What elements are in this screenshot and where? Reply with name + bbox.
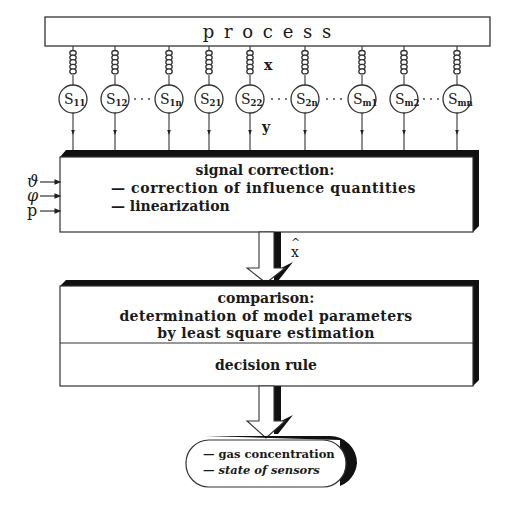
coupling-coil-icon bbox=[302, 51, 308, 74]
process-label: p r o c e s s bbox=[203, 21, 334, 42]
sensor-s2n: S2n bbox=[291, 46, 319, 151]
decision-rule: decision rule bbox=[215, 357, 317, 373]
input-p: p bbox=[27, 201, 37, 220]
output-item-2: — state of sensors bbox=[203, 463, 320, 477]
output-item-1: — gas concentration bbox=[203, 447, 335, 461]
sensor-s1n: S1n bbox=[155, 46, 183, 151]
coupling-coil-icon bbox=[359, 51, 365, 74]
sensor-sm1: Sm1 bbox=[348, 46, 378, 151]
coupling-coil-icon bbox=[166, 51, 172, 74]
coupling-coil-icon bbox=[206, 51, 212, 74]
arrow-output bbox=[247, 386, 293, 438]
comparison-title: comparison: bbox=[218, 290, 315, 306]
comparison-block: comparison: determination of model param… bbox=[60, 280, 479, 386]
sensor-s21: S21 bbox=[195, 46, 223, 151]
sensor-sm2: Sm2 bbox=[390, 46, 420, 151]
signal-correction-title: signal correction: bbox=[196, 162, 335, 178]
arrow-xhat bbox=[247, 232, 293, 283]
y-label: y bbox=[261, 119, 271, 135]
coupling-coil-icon bbox=[401, 51, 407, 74]
signal-correction-item-2: — linearization bbox=[111, 198, 230, 214]
signal-correction-item-1: — correction of influence quantities bbox=[111, 180, 416, 196]
comparison-line-2: by least square estimation bbox=[157, 325, 375, 341]
input-arrows bbox=[40, 180, 60, 213]
coupling-coil-icon bbox=[70, 51, 76, 74]
signal-correction-block: signal correction: — correction of influ… bbox=[60, 150, 479, 232]
x-label: x bbox=[264, 57, 273, 73]
coupling-coil-icon bbox=[112, 51, 118, 74]
x-hat-caret: ^ bbox=[291, 236, 300, 249]
sensor-smn: Smn bbox=[443, 46, 473, 151]
output-terminal: — gas concentration — state of sensors bbox=[186, 436, 357, 487]
sensor-s22: S22 bbox=[236, 46, 264, 151]
sensor-s12: S12 bbox=[101, 46, 129, 151]
coupling-coil-icon bbox=[454, 51, 460, 74]
coupling-coil-icon bbox=[247, 51, 253, 74]
comparison-line-1: determination of model parameters bbox=[119, 308, 412, 324]
block-diagram: p r o c e s s S11S12S1nS21S22S2nSm1Sm2Sm… bbox=[0, 0, 513, 516]
sensor-s11: S11 bbox=[59, 46, 87, 151]
